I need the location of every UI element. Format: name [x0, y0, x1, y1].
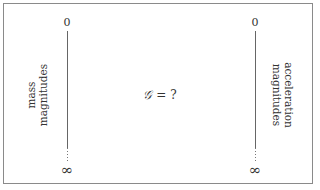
right-axis-title-line-1: acceleration — [283, 62, 295, 128]
left-axis-title-line-2: magnitudes — [37, 64, 49, 126]
left-axis-title: mass magnitudes — [25, 64, 49, 126]
right-axis-line — [255, 31, 256, 148]
right-axis-title-line-2: magnitudes — [271, 62, 283, 128]
formula-value: ? — [170, 88, 176, 102]
left-axis-line — [67, 31, 68, 148]
right-axis-top-label: 0 — [245, 17, 265, 28]
right-axis-title: acceleration magnitudes — [271, 62, 295, 128]
left-axis-top-label: 0 — [57, 17, 77, 28]
formula-operator: = — [152, 88, 170, 102]
left-axis-bottom-label: ∞ — [57, 163, 77, 177]
right-axis-bottom-label: ∞ — [245, 163, 265, 177]
formula-symbol: 𝒢 — [143, 88, 152, 102]
center-formula: 𝒢 = ? — [143, 88, 176, 102]
left-axis-title-line-1: mass — [25, 64, 37, 126]
